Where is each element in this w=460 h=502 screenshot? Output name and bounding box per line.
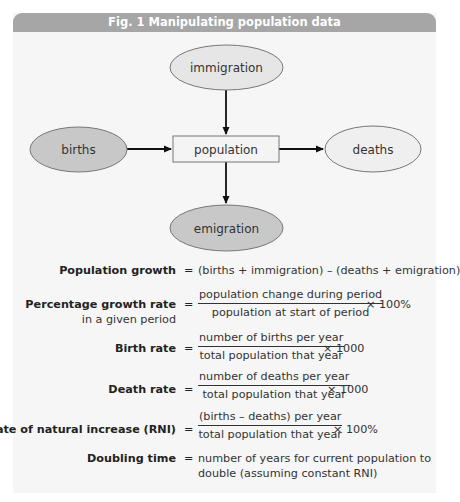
equals-sign: =	[184, 383, 193, 396]
formula-label: Population growth	[59, 264, 176, 277]
equals-sign: =	[184, 298, 193, 311]
multiplier: × 1000	[327, 383, 368, 396]
numerator: population change during period	[198, 288, 383, 304]
numerator: (births – deaths) per year	[198, 410, 342, 426]
denominator: total population that year	[198, 426, 342, 441]
fraction: (births – deaths) per year total populat…	[198, 410, 342, 441]
multiplier: × 100%	[366, 298, 411, 311]
formula-expression-line-1: number of years for current population t…	[198, 452, 431, 465]
equals-sign: =	[184, 342, 193, 355]
formula-expression: (births + immigration) – (deaths + emigr…	[198, 264, 460, 277]
denominator: population at start of period	[198, 304, 383, 319]
multiplier: × 1000	[323, 342, 364, 355]
formula-expression-line-2: double (assuming constant RNI)	[198, 467, 377, 480]
fraction: population change during period populati…	[198, 288, 383, 319]
equals-sign: =	[184, 423, 193, 436]
formula-label: Doubling time	[87, 452, 176, 465]
formula-label: Percentage growth rate	[25, 298, 176, 311]
equals-sign: =	[184, 452, 193, 465]
multiplier: × 100%	[333, 423, 378, 436]
equals-sign: =	[184, 264, 193, 277]
formula-label: Birth rate	[115, 342, 176, 355]
formula-label: Death rate	[108, 383, 176, 396]
formula-label: Rate of natural increase (RNI)	[0, 423, 176, 436]
formula-sublabel: in a given period	[82, 313, 176, 326]
